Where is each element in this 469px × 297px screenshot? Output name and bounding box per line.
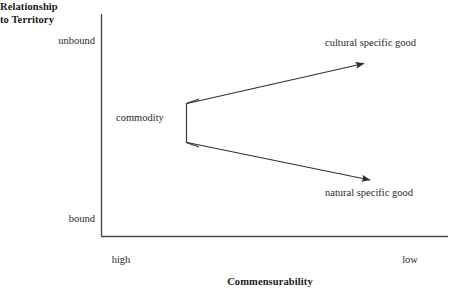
x-axis-title: Commensurability — [180, 275, 360, 288]
connector-commodity-to-cultural — [187, 64, 364, 104]
connector-commodity-to-natural — [187, 143, 370, 181]
node-label-natural-specific-good: natural specific good — [325, 186, 413, 199]
x-axis-tick-high: high — [96, 253, 146, 266]
y-axis-tick-unbound: unbound — [0, 34, 95, 47]
x-axis-tick-low: low — [386, 253, 434, 266]
y-axis-tick-bound: bound — [0, 212, 95, 225]
diagram-canvas: unbound bound Relationship to Territory … — [0, 0, 469, 297]
node-label-cultural-specific-good: cultural specific good — [325, 36, 416, 49]
commodity-bracket — [187, 99, 200, 147]
node-label-commodity: commodity — [116, 111, 164, 124]
